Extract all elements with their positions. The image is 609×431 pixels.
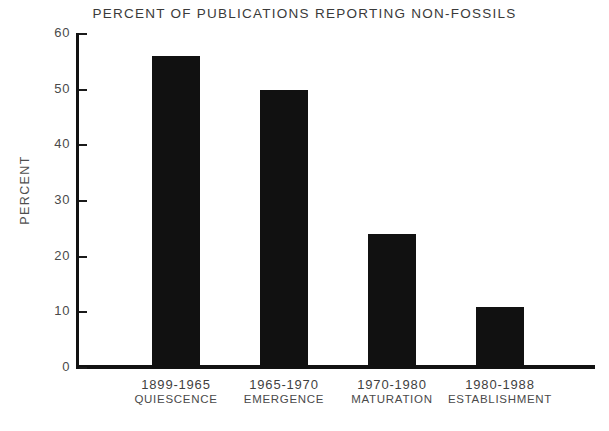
y-tick-label-20: 20 <box>30 248 70 263</box>
y-tick-40 <box>79 144 87 146</box>
chart-title: PERCENT OF PUBLICATIONS REPORTING NON-FO… <box>0 6 609 21</box>
bar-1899-1965 <box>152 56 200 368</box>
category-phase-3: ESTABLISHMENT <box>440 392 560 406</box>
y-tick-label-60: 60 <box>30 25 70 40</box>
bar-1965-1970 <box>260 90 308 368</box>
y-tick-label-10: 10 <box>30 303 70 318</box>
y-tick-10 <box>79 311 87 313</box>
category-label-3: 1980-1988ESTABLISHMENT <box>440 377 560 406</box>
category-label-0: 1899-1965QUIESCENCE <box>116 377 236 406</box>
bar-1980-1988 <box>476 307 524 368</box>
y-tick-20 <box>79 256 87 258</box>
category-range-3: 1980-1988 <box>440 377 560 392</box>
category-label-2: 1970-1980MATURATION <box>332 377 452 406</box>
y-tick-label-40: 40 <box>30 136 70 151</box>
y-tick-0 <box>79 367 87 369</box>
bar-1970-1980 <box>368 234 416 368</box>
category-phase-0: QUIESCENCE <box>116 392 236 406</box>
category-range-2: 1970-1980 <box>332 377 452 392</box>
category-range-1: 1965-1970 <box>224 377 344 392</box>
category-label-1: 1965-1970EMERGENCE <box>224 377 344 406</box>
y-axis-title: PERCENT <box>18 140 32 240</box>
category-phase-1: EMERGENCE <box>224 392 344 406</box>
bar-chart-figure: PERCENT OF PUBLICATIONS REPORTING NON-FO… <box>0 0 609 431</box>
y-tick-label-0: 0 <box>30 359 70 374</box>
category-phase-2: MATURATION <box>332 392 452 406</box>
category-range-0: 1899-1965 <box>116 377 236 392</box>
y-tick-label-50: 50 <box>30 81 70 96</box>
y-tick-50 <box>79 89 87 91</box>
y-tick-60 <box>79 33 87 35</box>
y-tick-label-30: 30 <box>30 192 70 207</box>
y-tick-30 <box>79 200 87 202</box>
